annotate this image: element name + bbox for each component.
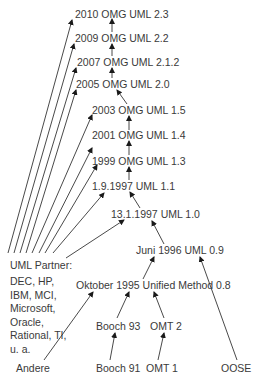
edge-partner-uml13: [45, 165, 97, 253]
edge-omt1-omt2: [158, 333, 164, 360]
node-oose: OOSE: [221, 362, 251, 374]
node-uml-partner: UML Partner:: [10, 259, 72, 271]
edge-booch91-booch93: [110, 333, 115, 360]
uml-partner-list: DEC, HP, IBM, MCI, Microsoft, Oracle, Ra…: [10, 275, 66, 356]
node-uml-1-0: 13.1.1997 UML 1.0: [111, 208, 200, 220]
node-uml-2-0: 2005 OMG UML 2.0: [76, 78, 170, 90]
edge-omt2-um08: [154, 292, 164, 318]
node-booch-93: Booch 93: [96, 320, 140, 332]
node-uml-1-3: 1999 OMG UML 1.3: [92, 155, 186, 167]
edge-partner-uml10: [66, 220, 124, 258]
node-uml-2-2: 2009 OMG UML 2.2: [75, 32, 169, 44]
node-andere: Andere: [16, 362, 50, 374]
node-omt-2: OMT 2: [150, 320, 182, 332]
edge-partner-uml23: [8, 20, 72, 253]
node-uml-1-5: 2003 OMG UML 1.5: [92, 104, 186, 116]
node-uml-2-3: 2010 OMG UML 2.3: [75, 8, 169, 20]
node-uml-0-9: Juni 1996 UML 0.9: [136, 244, 224, 256]
edge-uml10-uml11: [130, 192, 140, 208]
node-booch-91: Booch 91: [96, 362, 140, 374]
edge-partner-uml11: [53, 193, 104, 253]
node-uml-2-1-2: 2007 OMG UML 2.1.2: [77, 56, 179, 68]
edge-booch93-um08: [117, 292, 129, 318]
node-uml-1-1: 1.9.1997 UML 1.1: [92, 180, 175, 192]
edge-partner-uml212: [20, 68, 76, 253]
edge-uml15-uml20: [117, 90, 127, 104]
node-unified-method-0-8: Oktober 1995 Unified Method 0.8: [76, 279, 231, 291]
edge-um08-uml09: [143, 257, 154, 279]
edge-oose-uml09: [200, 257, 237, 360]
node-uml-1-4: 2001 OMG UML 1.4: [92, 129, 186, 141]
node-omt-1: OMT 1: [146, 362, 178, 374]
edge-partner-uml22: [14, 44, 74, 253]
edge-uml09-uml10: [152, 221, 164, 244]
